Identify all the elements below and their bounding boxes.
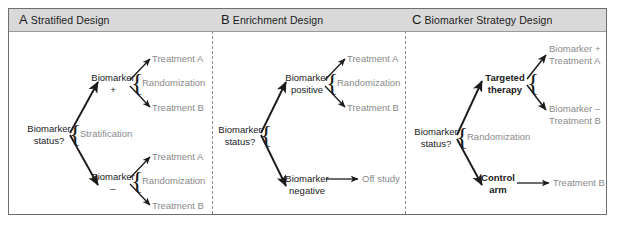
node-c-root-line1: Biomarker <box>414 126 457 137</box>
node-c-root-line2: status? <box>421 137 452 148</box>
edge-label-a-upper-randomization: Randomization <box>142 77 205 89</box>
leaf-c-treatment-b: Treatment B <box>553 177 605 189</box>
leaf-c-arm-b-line2: Treatment B <box>549 114 601 125</box>
edge-label-b-randomization: Randomization <box>337 77 400 89</box>
node-b-upper-line1: Biomarker <box>285 72 328 83</box>
node-c-targeted-therapy: Targeted therapy <box>485 72 524 95</box>
node-b-root-line2: status? <box>225 135 256 146</box>
leaf-b-treatment-b: Treatment B <box>347 102 399 114</box>
leaf-c-biomarker-neg-treatment-b: Biomarker – Treatment B <box>549 103 601 126</box>
edge-label-a-stratification: Stratification <box>80 128 132 140</box>
node-a-biomarker-negative: Biomarker – <box>91 171 134 194</box>
node-c-root: Biomarker status? <box>414 126 457 149</box>
node-b-upper-line2: positive <box>291 83 323 94</box>
leaf-b-off-study: Off study <box>362 173 400 185</box>
node-b-root-line1: Biomarker <box>218 124 261 135</box>
brace-b-root: { <box>260 120 272 150</box>
node-a-root: Biomarker status? <box>27 123 70 146</box>
edge-label-a-lower-randomization: Randomization <box>142 175 205 187</box>
leaf-a-upper-treatment-b: Treatment B <box>152 102 204 114</box>
leaf-b-treatment-a: Treatment A <box>347 53 398 65</box>
node-b-lower-line2: negative <box>289 184 325 195</box>
node-a-root-line1: Biomarker <box>27 123 70 134</box>
figure-frame: AStratified Design BEnrichment Design CB… <box>8 8 607 215</box>
node-b-root: Biomarker status? <box>218 124 261 147</box>
node-a-lower-line1: Biomarker <box>91 171 134 182</box>
leaf-a-lower-treatment-a: Treatment A <box>152 151 203 163</box>
edge-label-c-randomization: Randomization <box>467 131 530 143</box>
leaf-c-biomarker-pos-treatment-a: Biomarker + Treatment A <box>549 43 600 66</box>
node-a-lower-line2: – <box>110 182 115 193</box>
leaf-c-arm-b-line1: Biomarker – <box>549 103 600 114</box>
node-c-lower-line1: Control <box>481 172 515 183</box>
leaf-a-upper-treatment-a: Treatment A <box>152 53 203 65</box>
leaf-c-arm-a-line2: Treatment A <box>549 54 600 65</box>
node-b-biomarker-negative: Biomarker negative <box>285 173 328 196</box>
node-c-control-arm: Control arm <box>481 172 515 195</box>
node-b-biomarker-positive: Biomarker positive <box>285 72 328 95</box>
node-b-lower-line1: Biomarker <box>285 173 328 184</box>
node-c-lower-line2: arm <box>489 183 506 194</box>
node-a-biomarker-positive: Biomarker + <box>91 72 134 95</box>
node-c-upper-line2: therapy <box>488 83 522 94</box>
node-a-root-line2: status? <box>34 134 65 145</box>
figure-root: AStratified Design BEnrichment Design CB… <box>0 0 620 227</box>
brace-c-upper: { <box>527 68 539 98</box>
node-a-upper-line1: Biomarker <box>91 72 134 83</box>
leaf-a-lower-treatment-b: Treatment B <box>152 200 204 212</box>
node-c-upper-line1: Targeted <box>485 72 524 83</box>
node-a-upper-line2: + <box>110 83 116 94</box>
leaf-c-arm-a-line1: Biomarker + <box>549 43 600 54</box>
